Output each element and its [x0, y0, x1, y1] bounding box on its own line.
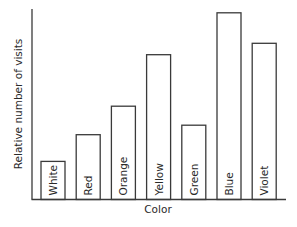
- bar-label-white: White: [47, 165, 59, 196]
- bar-blue: [217, 13, 241, 200]
- bar-label-orange: Orange: [117, 157, 129, 196]
- bar-label-yellow: Yellow: [153, 163, 165, 197]
- y-axis-title: Relative number of visits: [12, 39, 24, 170]
- bar-label-green: Green: [188, 164, 200, 196]
- bars-group: WhiteRedOrangeYellowGreenBlueViolet: [41, 13, 276, 200]
- bar-label-blue: Blue: [223, 172, 235, 195]
- bar-chart: WhiteRedOrangeYellowGreenBlueViolet Rela…: [0, 0, 297, 227]
- bar-label-red: Red: [82, 176, 94, 196]
- bar-label-violet: Violet: [258, 166, 270, 196]
- x-axis-title: Color: [144, 203, 172, 215]
